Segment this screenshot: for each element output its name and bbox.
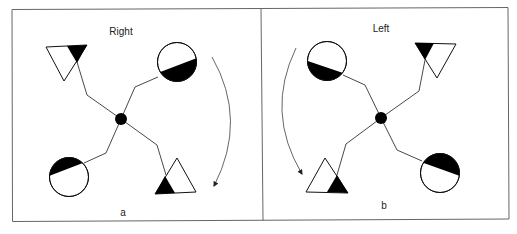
curved-arrow-counterclockwise-icon — [282, 48, 302, 174]
circle-bottom-right — [400, 130, 470, 193]
circle-bottom-left — [40, 140, 100, 197]
triangle-bottom-left — [306, 158, 348, 193]
panel-b: Left b — [282, 23, 470, 211]
panel-a: Right a — [40, 26, 231, 218]
circle-top-right — [150, 43, 210, 101]
panel-b-caption: b — [381, 200, 387, 211]
circle-top-left — [300, 42, 360, 101]
center-dot-b — [375, 112, 387, 124]
triangle-bottom-right — [155, 158, 196, 194]
panel-divider — [261, 9, 263, 221]
triangle-top-right — [415, 43, 456, 78]
curved-arrow-clockwise-icon — [212, 57, 231, 186]
panel-a-caption: a — [120, 207, 126, 218]
center-dot-a — [115, 113, 127, 125]
diagram-canvas: Right a — [0, 0, 517, 234]
panel-b-title: Left — [373, 23, 390, 34]
panel-a-title: Right — [109, 26, 133, 37]
